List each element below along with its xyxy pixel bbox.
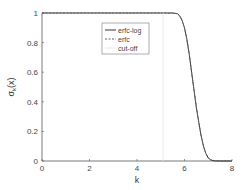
y-tick-label: 0.4 [27, 98, 39, 107]
y-tick-label: 1 [34, 9, 39, 18]
x-tick-label: 2 [87, 164, 92, 173]
y-tick-label: 0.6 [27, 68, 39, 77]
y-tick-label: 0.8 [27, 39, 39, 48]
y-axis-label: σk(x) [6, 77, 17, 96]
chart: 0246800.20.40.60.81kσk(x) erfc-logerfccu… [0, 0, 243, 190]
x-tick-label: 6 [182, 164, 187, 173]
legend-label: erfc-log [118, 27, 141, 35]
y-tick-label: 0 [34, 157, 39, 166]
x-axis-label: k [135, 175, 140, 185]
legend-label: erfc [118, 36, 130, 43]
legend-label: cut-off [118, 45, 137, 52]
x-tick-label: 0 [40, 164, 45, 173]
legend: erfc-logerfccut-off [102, 23, 149, 54]
y-tick-label: 0.2 [27, 127, 39, 136]
x-tick-label: 8 [230, 164, 235, 173]
x-tick-label: 4 [135, 164, 140, 173]
